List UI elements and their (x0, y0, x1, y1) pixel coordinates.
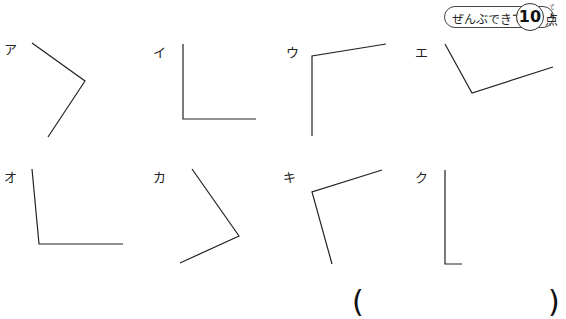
answer-box[interactable] (370, 286, 550, 316)
angle-figure-ku (445, 170, 462, 264)
answer-close-paren: ) (548, 284, 560, 319)
angle-figure-ki (312, 170, 382, 264)
angle-figure-ka (180, 169, 239, 263)
angle-figure-i (183, 44, 256, 119)
angle-figure-u (312, 44, 386, 136)
angle-figures (0, 0, 566, 319)
angle-figure-a (32, 43, 85, 137)
answer-open-paren: ( (352, 284, 364, 319)
angle-figure-e (445, 44, 553, 93)
angle-figure-o (32, 169, 123, 244)
